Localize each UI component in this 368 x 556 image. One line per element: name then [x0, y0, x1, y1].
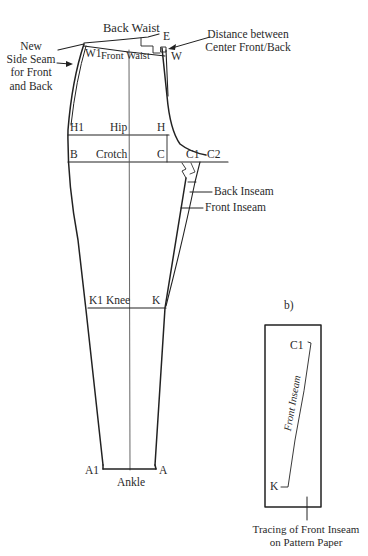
back-waist-label: Back Waist — [103, 22, 160, 35]
point-k-label: K — [152, 295, 160, 307]
box-c1-label: C1 — [290, 340, 303, 352]
front-inseam-label: Front Inseam — [205, 202, 266, 214]
box-k-label: K — [270, 481, 278, 493]
grain-line — [129, 50, 130, 470]
front-inseam-line — [155, 178, 186, 465]
point-w-label: W — [171, 51, 182, 63]
point-w1-label: W1 — [85, 48, 102, 60]
ankle-label: Ankle — [117, 477, 145, 489]
back-waist-line — [84, 34, 159, 43]
point-e-label: E — [163, 31, 170, 43]
point-h1-label: H1 — [70, 122, 84, 134]
point-h-label: H — [157, 122, 165, 134]
crotch-notch-mark — [182, 163, 186, 178]
side-seam-arrow-head — [66, 61, 73, 67]
point-a-label: A — [159, 465, 167, 477]
point-a1-label: A1 — [85, 465, 99, 477]
back-inseam-line — [166, 182, 195, 306]
point-c1-label: C1 — [186, 149, 199, 161]
back-inseam-label: Back Inseam — [214, 186, 274, 198]
crotch-notch-mark-inner — [190, 163, 195, 174]
tracing-caption: Tracing of Front Inseam on Pattern Paper — [244, 523, 368, 548]
knee-label: K1 Knee — [89, 295, 130, 307]
point-c2-label: C2 — [207, 149, 220, 161]
waist-extension-line — [58, 44, 84, 50]
point-b-label: B — [70, 149, 78, 161]
center-front-crotch-curve — [162, 48, 206, 155]
point-c-label: C — [157, 149, 165, 161]
new-side-seam-label: New Side Seam for Front and Back — [2, 40, 60, 93]
hip-label: Hip — [110, 122, 127, 134]
back-inseam-top — [195, 162, 200, 182]
crotch-label: Crotch — [96, 149, 127, 161]
front-waist-label: Front Waist — [101, 51, 150, 62]
panel-b-caption: b) — [284, 300, 294, 312]
distance-center-label: Distance between Center Front/Back — [198, 28, 298, 54]
